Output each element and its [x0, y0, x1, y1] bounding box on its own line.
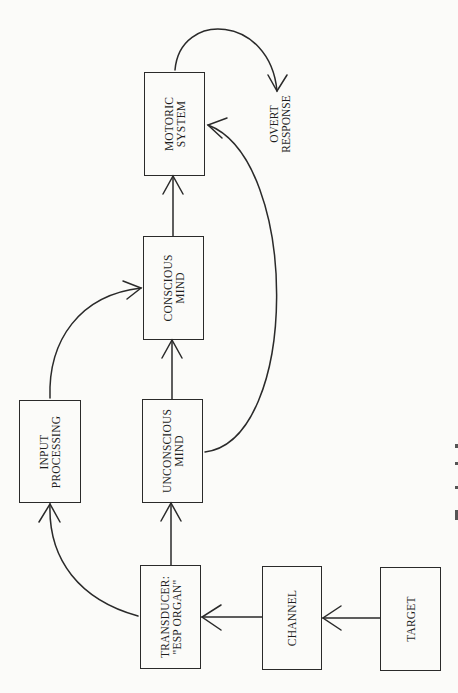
node-input-processing: INPUT PROCESSING	[19, 400, 81, 503]
node-channel: CHANNEL	[262, 566, 322, 670]
edge-unconscious-to-motoric	[205, 125, 277, 452]
diagram-canvas: MOTORIC SYSTEM CONSCIOUS MIND UNCONSCIOU…	[0, 0, 458, 693]
node-motoric-system: MOTORIC SYSTEM	[144, 72, 205, 176]
node-label: TRANSDUCER: "ESP ORGAN"	[159, 576, 183, 658]
node-label: MOTORIC SYSTEM	[163, 97, 187, 151]
edge-input-processing-to-conscious	[50, 288, 141, 398]
node-transducer-esp-organ: TRANSDUCER: "ESP ORGAN"	[140, 565, 201, 669]
node-label: INPUT PROCESSING	[38, 415, 62, 487]
node-conscious-mind: CONSCIOUS MIND	[143, 236, 204, 340]
node-label: CONSCIOUS MIND	[162, 255, 186, 322]
node-label: UNCONSCIOUS MIND	[161, 409, 185, 493]
overt-response-label: OVERT RESPONSE	[268, 95, 292, 153]
node-label: TARGET	[405, 596, 417, 642]
node-label: CHANNEL	[286, 590, 298, 646]
edge-transducer-to-input-processing	[50, 504, 138, 616]
node-target: TARGET	[380, 567, 441, 671]
node-unconscious-mind: UNCONSCIOUS MIND	[142, 399, 203, 503]
